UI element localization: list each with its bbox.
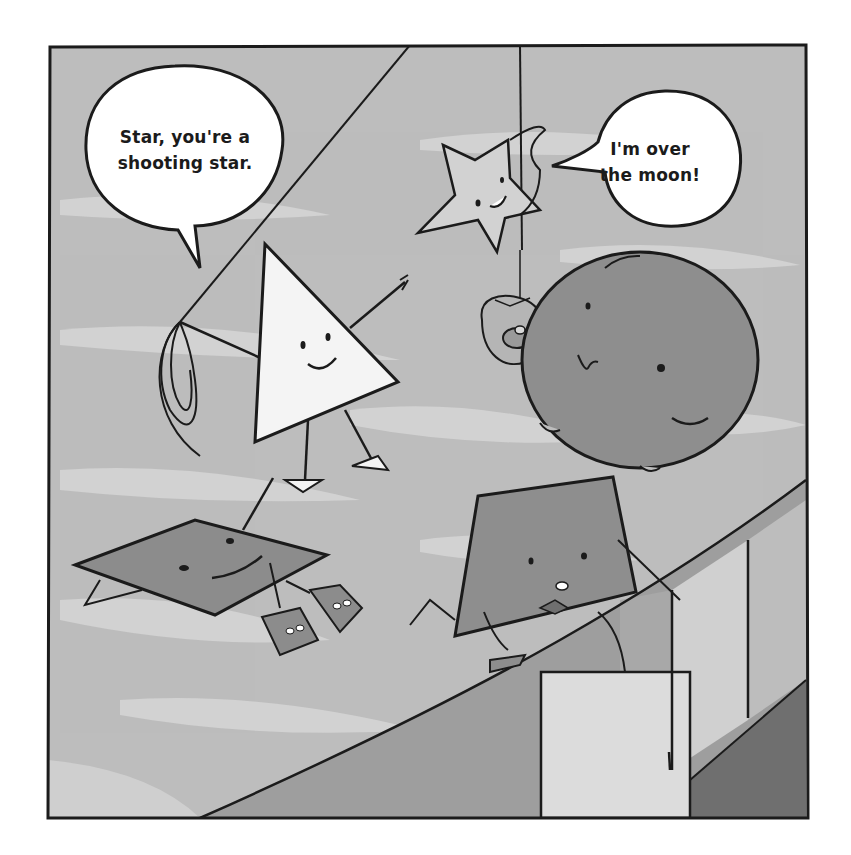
speech-line: shooting star.	[100, 150, 270, 176]
speech-line: Star, you're a	[100, 124, 270, 150]
speech-text-star: I'm over the moon!	[585, 136, 715, 188]
speech-line: the moon!	[585, 162, 715, 188]
circle-character	[522, 252, 758, 471]
comic-panel-page: Star, you're a shooting star. I'm over t…	[0, 0, 851, 855]
speech-line: I'm over	[585, 136, 715, 162]
speech-text-triangle: Star, you're a shooting star.	[100, 124, 270, 176]
